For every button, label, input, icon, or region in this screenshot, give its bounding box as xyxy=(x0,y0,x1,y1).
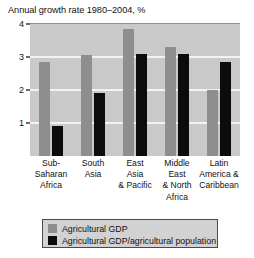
bar xyxy=(207,90,218,156)
x-axis-label-line: Caribbean xyxy=(196,180,242,191)
bar xyxy=(81,55,92,156)
bar xyxy=(220,62,231,156)
bar xyxy=(136,54,147,156)
x-axis-label-line: Latin xyxy=(196,158,242,169)
y-axis-tick-label: 1 xyxy=(0,119,24,128)
x-axis-label-line: Africa xyxy=(154,192,200,203)
bar xyxy=(123,29,134,156)
gridline xyxy=(30,56,240,58)
x-axis-label-line: South xyxy=(70,158,116,169)
legend-label: Agricultural GDP/agricultural population xyxy=(62,236,216,246)
chart-figure: Annual growth rate 1980–2004, % 01234 Su… xyxy=(0,0,254,258)
x-axis-label: SouthAsia xyxy=(70,158,116,180)
x-axis-label-line: East xyxy=(154,169,200,180)
bar xyxy=(94,93,105,156)
y-axis-tick-label: 4 xyxy=(0,20,24,29)
y-axis-tick-label: 3 xyxy=(0,53,24,62)
legend-item: Agricultural GDP xyxy=(48,223,217,234)
x-axis-label-line: America & xyxy=(196,169,242,180)
x-axis-label-line: & Pacific xyxy=(112,180,158,191)
bar xyxy=(52,126,63,156)
x-axis-label-line: Middle xyxy=(154,158,200,169)
chart-title: Annual growth rate 1980–2004, % xyxy=(8,4,145,16)
x-axis-label: Sub-SaharanAfrica xyxy=(28,158,74,192)
bar xyxy=(165,47,176,156)
x-axis-label-line: Sub- xyxy=(28,158,74,169)
legend-item: Agricultural GDP/agricultural population xyxy=(48,235,217,246)
x-axis-label-line: East xyxy=(112,158,158,169)
x-axis-label: LatinAmerica &Caribbean xyxy=(196,158,242,192)
plot-area xyxy=(30,24,240,156)
legend-swatch xyxy=(48,224,57,233)
x-axis-label: MiddleEast& NorthAfrica xyxy=(154,158,200,203)
chart-legend: Agricultural GDPAgricultural GDP/agricul… xyxy=(42,219,218,248)
x-axis-labels: Sub-SaharanAfricaSouthAsiaEastAsia& Paci… xyxy=(30,158,240,206)
x-axis-label-line: Asia xyxy=(112,169,158,180)
x-axis-label-line: Saharan xyxy=(28,169,74,180)
legend-label: Agricultural GDP xyxy=(62,224,128,234)
legend-swatch xyxy=(48,236,57,245)
bar xyxy=(39,62,50,156)
x-axis-label-line: Asia xyxy=(70,169,116,180)
x-axis-label-line: & North xyxy=(154,180,200,191)
y-axis-tick-label: 2 xyxy=(0,86,24,95)
bar xyxy=(178,54,189,156)
x-axis-label: EastAsia& Pacific xyxy=(112,158,158,192)
x-axis-label-line: Africa xyxy=(28,180,74,191)
